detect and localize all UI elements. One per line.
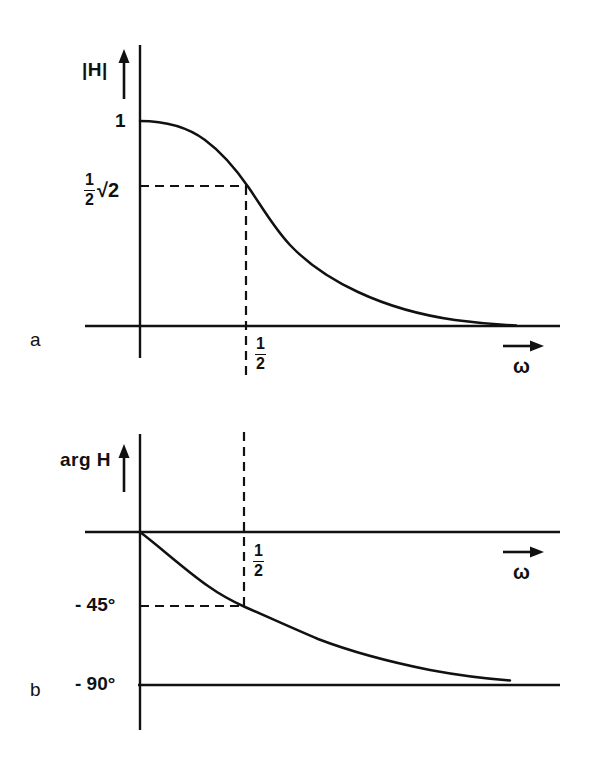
panel-a-y-tick-cutoff: 1 2 √2 [84, 172, 119, 209]
panel-b-phase-curve [140, 532, 510, 681]
panel-b-x-tick-denominator: 2 [253, 562, 264, 580]
panel-b-letter: b [30, 680, 41, 699]
panel-b-y-tick-minus-90: - 90° [75, 674, 115, 693]
panel-a-x-axis-label: ω [513, 356, 530, 376]
panel-a-cutoff-denominator: 2 [84, 191, 95, 209]
panel-b-x-tick-half: 1 2 [253, 543, 264, 580]
panel-b-y-axis-arrow-icon [119, 444, 130, 492]
panel-b-x-axis-arrow-icon [503, 547, 544, 558]
panel-b-y-axis-label: arg H [60, 450, 111, 469]
panel-a-x-tick-numerator: 1 [255, 336, 266, 355]
panel-a-cutoff-fraction: 1 2 [84, 172, 95, 209]
panel-b-x-axis-label: ω [513, 562, 530, 582]
panel-b-x-tick-numerator: 1 [253, 543, 264, 562]
panel-a-x-tick-denominator: 2 [255, 355, 266, 373]
panel-a-y-axis-arrow-icon [119, 49, 130, 99]
panel-a-magnitude-curve [140, 121, 516, 326]
panel-a-x-axis-arrow-icon [503, 341, 544, 352]
panel-b-y-tick-minus-45: - 45° [75, 595, 115, 614]
panel-a-magnitude [85, 45, 560, 378]
panel-a-cutoff-radical: √2 [97, 179, 119, 202]
panel-a-y-tick-one: 1 [115, 111, 126, 130]
panel-a-y-axis-label: |H| [82, 60, 108, 79]
frequency-response-figure [0, 0, 591, 763]
panel-a-cutoff-numerator: 1 [84, 172, 95, 191]
panel-b-phase [85, 432, 560, 730]
panel-a-letter: a [30, 330, 41, 349]
panel-a-x-tick-half: 1 2 [255, 336, 266, 373]
